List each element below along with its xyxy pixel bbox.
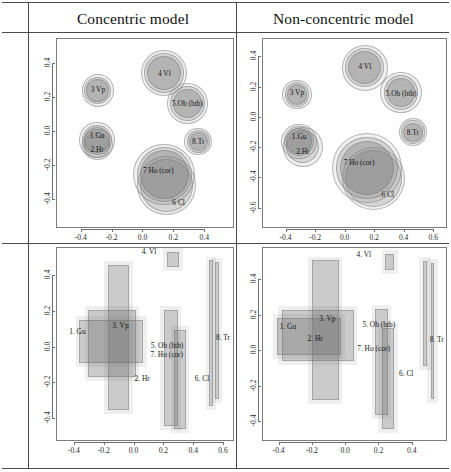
y-axis-line — [258, 56, 259, 208]
x-tick-label: 0.4 — [189, 233, 219, 242]
y-tick — [258, 421, 261, 422]
x-tick-label: -0.4 — [66, 233, 96, 242]
data-rect — [215, 262, 219, 399]
data-rect — [375, 309, 387, 415]
y-tick-label: 0.0 — [43, 121, 52, 141]
panel-rect-concentric: 1. Gu2. Hr3. Vp4. Vl5. Ob (htb)6. Cl7. H… — [30, 245, 236, 468]
y-tick-label: 0.4 — [43, 53, 52, 73]
x-tick-label: -0.2 — [297, 446, 327, 455]
y-tick-label: 0.2 — [43, 87, 52, 107]
data-circle — [147, 56, 181, 90]
x-tick-label: 0.2 — [359, 233, 389, 242]
x-tick-label: 0.2 — [158, 233, 188, 242]
data-rect — [431, 263, 434, 399]
x-tick — [204, 229, 205, 232]
y-tick-label: 0.0 — [43, 336, 52, 356]
frame-rule-header — [2, 32, 449, 33]
data-circle — [173, 89, 202, 118]
y-tick-label: -0.4 — [43, 188, 52, 208]
frame-rule-column-bot — [236, 243, 237, 468]
y-tick-label: -0.2 — [43, 155, 52, 175]
x-tick-label: 0.0 — [330, 233, 360, 242]
frame-rule-bottom — [2, 468, 449, 469]
y-tick-label: -0.2 — [249, 375, 258, 395]
y-tick — [52, 199, 55, 200]
x-tick-label: 0.4 — [178, 446, 208, 455]
y-tick-label: 0.2 — [249, 304, 258, 324]
data-rect — [312, 260, 339, 400]
x-tick-label: 0.2 — [148, 446, 178, 455]
x-tick-label: 0.4 — [397, 446, 427, 455]
y-tick-label: -0.6 — [249, 197, 258, 217]
data-rect — [385, 254, 394, 270]
y-axis-line — [258, 279, 259, 421]
data-circle — [140, 159, 192, 211]
frame-rule-rowlabel-top — [28, 2, 29, 243]
x-axis-line — [279, 442, 412, 443]
x-tick — [412, 442, 413, 445]
y-tick-label: 0.0 — [249, 340, 258, 360]
x-tick-label: -0.2 — [89, 446, 119, 455]
x-tick-label: 0.0 — [330, 446, 360, 455]
y-tick-label: 0.2 — [249, 76, 258, 96]
data-rect — [423, 261, 427, 366]
figure-root: Concentric model Non-concentric model Ci… — [0, 0, 451, 472]
x-tick-label: 0.6 — [208, 446, 236, 455]
x-tick — [223, 442, 224, 445]
panel-circle-concentric: 3 Vp1.Gu2.Hr4 Vl5.Ob (htb)8.Tr7 Ho (cor)… — [30, 34, 236, 243]
y-axis-line — [52, 63, 53, 198]
y-tick-label: -0.2 — [249, 137, 258, 157]
data-rect — [167, 252, 180, 267]
frame-rule-column-top — [236, 2, 237, 243]
data-circle — [403, 123, 422, 142]
x-tick-label: 0.0 — [119, 446, 149, 455]
x-tick-label: -0.4 — [271, 233, 301, 242]
y-tick-label: 0.4 — [249, 46, 258, 66]
x-tick — [433, 229, 434, 232]
data-circle — [287, 84, 308, 105]
data-rect — [108, 265, 130, 410]
data-rect — [164, 310, 178, 426]
x-tick-label: 0.4 — [389, 233, 419, 242]
x-tick-label: 0.6 — [418, 233, 448, 242]
frame-rule-middle — [2, 243, 449, 244]
data-box-label: 4. Vl — [357, 250, 372, 259]
y-tick — [52, 418, 55, 419]
plot-area-rect-nonconcentric: 1. Gu2. Hr3. Vp4. Vl5. Ob (htb)6. Cl7. H… — [262, 247, 447, 441]
x-axis-line — [81, 229, 205, 230]
panel-rect-nonconcentric: 1. Gu2. Hr3. Vp4. Vl5. Ob (htb)6. Cl7. H… — [238, 245, 449, 468]
x-tick-label: 0.0 — [127, 233, 157, 242]
column-header-nonconcentric: Non-concentric model — [238, 7, 449, 31]
x-tick-label: -0.2 — [300, 233, 330, 242]
y-tick-label: -0.4 — [249, 167, 258, 187]
plot-area-circle-concentric: 3 Vp1.Gu2.Hr4 Vl5.Ob (htb)8.Tr7 Ho (cor)… — [56, 38, 234, 228]
y-tick-label: 0.2 — [43, 301, 52, 321]
x-axis-line — [286, 229, 434, 230]
y-tick-label: 0.0 — [249, 106, 258, 126]
x-tick-label: -0.4 — [59, 446, 89, 455]
y-tick-label: -0.4 — [249, 411, 258, 431]
x-tick-label: -0.4 — [264, 446, 294, 455]
data-box-label: 4. Vl — [142, 247, 157, 256]
plot-area-rect-concentric: 1. Gu2. Hr3. Vp4. Vl5. Ob (htb)6. Cl7. H… — [56, 247, 234, 441]
x-axis-line — [74, 442, 223, 443]
y-tick-label: 0.4 — [249, 269, 258, 289]
x-tick-label: -0.2 — [97, 233, 127, 242]
y-axis-line — [52, 275, 53, 417]
data-box-label: 6. Cl — [399, 369, 413, 378]
y-tick-label: -0.2 — [43, 372, 52, 392]
data-circle — [345, 150, 402, 207]
frame-rule-top — [2, 2, 449, 3]
y-tick — [258, 208, 261, 209]
plot-area-circle-nonconcentric: 3 Vp1.Gu2.Hr4 Vl5.Ob (htb)8.Tr7 Ho (cor)… — [262, 38, 447, 228]
data-circle — [189, 132, 208, 151]
x-tick-label: 0.2 — [363, 446, 393, 455]
panel-circle-nonconcentric: 3 Vp1.Gu2.Hr4 Vl5.Ob (htb)8.Tr7 Ho (cor)… — [238, 34, 449, 243]
column-header-concentric: Concentric model — [30, 7, 236, 31]
y-tick-label: -0.4 — [43, 407, 52, 427]
y-tick-label: 0.4 — [43, 265, 52, 285]
